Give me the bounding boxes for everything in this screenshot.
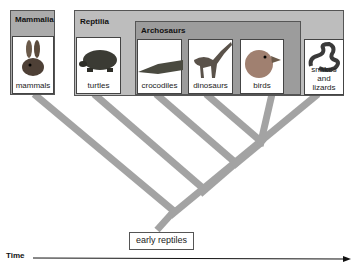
branch-dinosaurs <box>206 94 264 144</box>
taxon-label: crocodiles <box>138 81 181 90</box>
taxon-label-line1: snakes <box>305 65 343 74</box>
time-axis-label: Time <box>6 251 25 260</box>
branch-dinobird-stem <box>233 142 262 166</box>
group-archosaurs: Archosaurs crocodiles dinosaurs <box>135 21 301 95</box>
taxon-label: birds <box>241 81 283 90</box>
card-mammals: mammals <box>12 36 54 94</box>
branch-crocodiles <box>156 94 237 164</box>
root-label: early reptiles <box>129 232 194 250</box>
group-mammalia-label: Mammalia <box>15 15 54 24</box>
card-crocodiles: crocodiles <box>137 39 182 94</box>
card-turtles: turtles <box>76 37 121 94</box>
time-arrow-icon <box>33 254 353 264</box>
group-mammalia: Mammalia mammals <box>10 10 55 95</box>
taxon-label: snakes and lizards <box>305 65 343 92</box>
branch-turtles <box>94 94 205 190</box>
taxon-label: dinosaurs <box>189 81 232 90</box>
group-reptilia-label: Reptilia <box>80 17 109 26</box>
card-dinosaurs: dinosaurs <box>188 39 233 94</box>
branch-mammals <box>34 94 175 212</box>
rabbit-icon <box>13 37 53 79</box>
branch-archosaur-stem <box>200 162 237 194</box>
bird-icon <box>241 40 283 79</box>
turtle-icon <box>77 38 120 79</box>
group-archosaurs-label: Archosaurs <box>141 26 185 35</box>
dinosaur-icon <box>189 40 232 79</box>
card-snakes-and-lizards: snakes and lizards <box>304 39 344 95</box>
card-birds: birds <box>240 39 284 94</box>
taxon-label-line2: and lizards <box>305 74 343 92</box>
taxon-label: turtles <box>77 81 120 90</box>
crocodile-icon <box>138 40 181 79</box>
group-reptilia: Reptilia turtles Archosaurs crocodiles <box>74 10 344 96</box>
taxon-label: mammals <box>13 81 53 90</box>
